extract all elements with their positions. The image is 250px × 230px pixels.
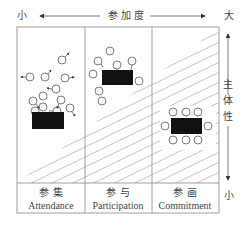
top-axis-small-label: 小 — [17, 10, 27, 21]
attendance-cluster — [21, 53, 75, 116]
right-axis-char-2: 体 — [223, 95, 233, 106]
attendance-cn-label: 参 集 — [39, 186, 62, 198]
right-axis-char-1: 主 — [223, 79, 233, 90]
commitment-box — [171, 118, 202, 134]
commitment-en-label: Commitment — [159, 200, 212, 211]
participation-box — [102, 70, 133, 85]
right-axis: 主 体 性 小 — [223, 34, 234, 201]
column-labels: 参 集 Attendance 参 与 Participation 参 画 Com… — [28, 186, 211, 211]
top-axis: 小 参 加 度 大 — [17, 9, 234, 21]
right-axis-small-label: 小 — [224, 190, 234, 201]
top-axis-title: 参 加 度 — [108, 9, 144, 21]
attendance-en-label: Attendance — [28, 200, 74, 211]
top-axis-large-label: 大 — [224, 9, 234, 21]
participation-en-label: Participation — [92, 200, 143, 211]
participation-diagram: 小 参 加 度 大 主 体 性 小 — [0, 0, 250, 230]
participation-cn-label: 参 与 — [106, 186, 129, 198]
attendance-box — [32, 112, 64, 129]
commitment-cn-label: 参 画 — [173, 186, 196, 198]
right-axis-char-3: 性 — [223, 110, 233, 122]
